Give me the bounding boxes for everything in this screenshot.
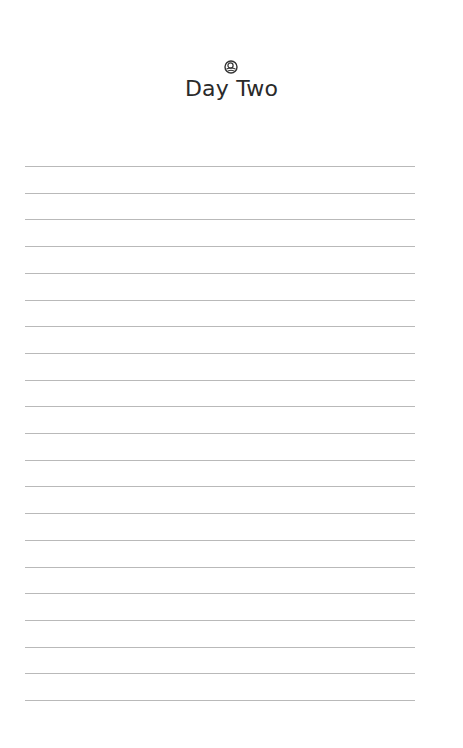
ruled-line	[25, 246, 415, 247]
ruled-line	[25, 300, 415, 301]
ruled-line	[25, 460, 415, 461]
ruled-line	[25, 193, 415, 194]
ruled-line	[25, 380, 415, 381]
ruled-line	[25, 219, 415, 220]
ruled-line	[25, 353, 415, 354]
ruled-line	[25, 273, 415, 274]
ruled-line	[25, 673, 415, 674]
ruled-line	[25, 620, 415, 621]
ruled-line	[25, 433, 415, 434]
ruled-line	[25, 700, 415, 701]
ruled-line	[25, 567, 415, 568]
ruled-line	[25, 406, 415, 407]
ruled-line	[25, 486, 415, 487]
ruled-line	[25, 647, 415, 648]
ruled-line	[25, 326, 415, 327]
ruled-line	[25, 593, 415, 594]
ruled-line	[25, 513, 415, 514]
ruled-lines	[25, 0, 415, 748]
ruled-line	[25, 166, 415, 167]
ruled-line	[25, 540, 415, 541]
